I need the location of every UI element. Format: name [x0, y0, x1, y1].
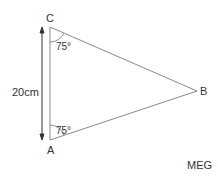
vertex-label-a: A — [47, 145, 54, 156]
vertex-label-b: B — [200, 86, 207, 97]
triangle-abc — [50, 27, 197, 140]
angle-label-c: 75° — [56, 42, 71, 52]
vertex-label-c: C — [46, 13, 54, 24]
side-length-label: 20cm — [12, 87, 39, 98]
side-ab — [50, 91, 197, 140]
credit-label: MEG — [187, 160, 212, 171]
angle-label-a: 75° — [56, 126, 71, 136]
arrow-down-icon — [40, 134, 44, 140]
length-arrow — [40, 27, 44, 140]
arrow-up-icon — [40, 27, 44, 33]
side-cb — [50, 27, 197, 91]
